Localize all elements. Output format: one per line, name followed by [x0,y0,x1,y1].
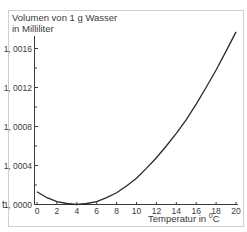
chart-svg: Volumen von 1 g Wasser in Milliliter t 1… [0,0,247,232]
x-tick-label: 4 [74,206,79,216]
y-tick-label: 1, 0008 [4,122,33,132]
y-tick-label: 1, 0012 [4,83,33,93]
y-tick-label: 1, 0016 [4,44,33,54]
x-tick-label: 6 [94,206,99,216]
y-axis-label-line2: in Milliliter [12,23,54,34]
volume-curve [37,32,236,205]
x-tick-label: 10 [132,206,142,216]
x-tick-label: 2 [55,206,60,216]
y-axis-label-line1: Volumen von 1 g Wasser [12,12,117,23]
x-tick-label: 20 [231,206,241,216]
x-tick-label: 0 [35,206,40,216]
y-tick-label: 1, 0000 [4,200,33,210]
chart: Volumen von 1 g Wasser in Milliliter t 1… [0,0,247,232]
y-tick-label: 1, 0004 [4,161,33,171]
x-axis-label: Temperatur in 0C [148,212,220,224]
chart-frame-border [9,11,244,227]
x-tick-label: 8 [114,206,119,216]
